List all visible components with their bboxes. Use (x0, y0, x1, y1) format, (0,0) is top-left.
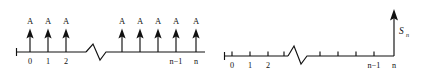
impulse-arrow-6 (172, 29, 179, 53)
sum-arrow-n (390, 9, 398, 56)
impulse-arrow-4 (136, 29, 143, 53)
right-tick-label-0: 0 (230, 61, 234, 70)
left-tick-label-n: n (194, 57, 198, 66)
sum-label-subscript: n (406, 31, 409, 38)
amplitude-label-2: A (63, 16, 70, 26)
left-tick-label-nm1: n−1 (170, 57, 183, 66)
left-panel-impulse-train: A A A A A A A A 0 1 2 n−1 n (16, 16, 205, 66)
right-tick-label-2: 2 (266, 61, 270, 70)
impulse-arrow-3 (118, 29, 125, 53)
impulse-arrow-2 (62, 29, 69, 53)
amplitude-label-0: A (27, 16, 34, 26)
right-axis-break-zigzag (288, 46, 312, 64)
impulse-arrow-0 (26, 29, 33, 53)
right-panel-accumulated-sum: S n 0 1 2 n−1 n (224, 9, 409, 70)
right-tick-label-1: 1 (248, 61, 252, 70)
amplitude-label-5: A (155, 16, 162, 26)
sum-label-base: S (399, 26, 404, 36)
impulse-arrow-1 (44, 29, 51, 53)
figure-container: A A A A A A A A 0 1 2 n−1 n (0, 0, 429, 75)
sum-label-Sn: S n (399, 26, 409, 38)
left-tick-label-2: 2 (64, 57, 68, 66)
right-tick-label-n: n (392, 61, 396, 70)
right-tick-label-nm1: n−1 (368, 61, 381, 70)
amplitude-label-6: A (173, 16, 180, 26)
left-axis-break-zigzag (86, 44, 112, 60)
amplitude-label-4: A (137, 16, 144, 26)
impulse-and-sum-figure: A A A A A A A A 0 1 2 n−1 n (0, 0, 429, 75)
impulse-arrow-5 (154, 29, 161, 53)
amplitude-label-7: A (193, 16, 200, 26)
impulse-arrow-7 (192, 29, 199, 53)
amplitude-label-3: A (119, 16, 126, 26)
left-tick-label-1: 1 (46, 57, 50, 66)
left-tick-label-0: 0 (28, 57, 32, 66)
amplitude-label-1: A (45, 16, 52, 26)
